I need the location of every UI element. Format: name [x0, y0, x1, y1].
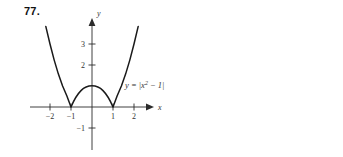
y-axis-name-label: y — [96, 9, 101, 18]
y-tick-label-neg1: −1 — [76, 124, 85, 133]
y-axis-arrow-icon — [89, 18, 96, 26]
x-axis-arrow-icon — [146, 104, 154, 111]
x-tick-label-neg2: −2 — [46, 112, 55, 121]
x-tick-label-pos2: 2 — [132, 112, 136, 121]
y-tick-label-pos3: 3 — [81, 40, 85, 49]
figure-container: 77. −2 −1 1 2 3 2 −1 x y y = |x2 — [0, 0, 343, 157]
x-axis-name-label: x — [157, 103, 162, 112]
x-tick-label-neg1: −1 — [67, 112, 76, 121]
graph-plot: −2 −1 1 2 3 2 −1 x y y = |x2 − 1| — [0, 0, 343, 157]
y-tick-label-pos2: 2 — [81, 61, 85, 70]
curve-equation-trail: − 1| — [148, 80, 165, 90]
curve-equation-lead: y = |x — [124, 80, 145, 90]
x-tick-label-pos1: 1 — [111, 112, 115, 121]
curve-equation-label: y = |x2 − 1| — [124, 80, 164, 90]
